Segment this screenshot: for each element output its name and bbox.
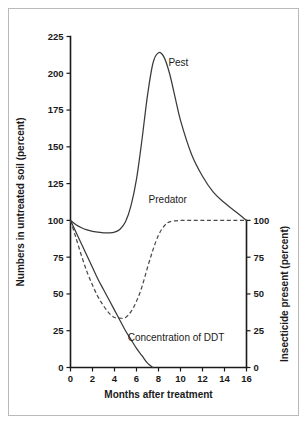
series-label-pest: Pest <box>168 57 188 68</box>
y-tick-label: 150 <box>48 141 64 152</box>
y2-tick-label: 100 <box>254 215 270 226</box>
y2-tick-label: 25 <box>254 325 265 336</box>
x-tick-label: 2 <box>90 373 95 384</box>
x-tick-label: 0 <box>68 373 73 384</box>
y-tick-label: 100 <box>48 215 64 226</box>
line-chart: 0255075100125150175200225025507510002468… <box>0 0 307 424</box>
x-tick-label: 16 <box>241 373 252 384</box>
x-tick-label: 12 <box>197 373 208 384</box>
x-tick-label: 4 <box>112 373 118 384</box>
y2-axis-title: Insecticide present (percent) <box>279 226 290 362</box>
y-tick-label: 75 <box>53 252 64 263</box>
y-tick-label: 0 <box>58 362 63 373</box>
y2-tick-label: 0 <box>254 362 259 373</box>
series-curve-predator <box>71 220 247 318</box>
x-tick-label: 10 <box>175 373 186 384</box>
y-tick-label: 225 <box>48 31 65 42</box>
x-axis-title: Months after treatment <box>104 389 213 400</box>
y2-tick-label: 75 <box>254 252 265 263</box>
series-curve-pest <box>71 52 247 233</box>
series-label-predator: Predator <box>149 194 188 205</box>
y-tick-label: 50 <box>53 288 64 299</box>
y-tick-label: 175 <box>48 104 65 115</box>
series-curve-concentration-of-ddt <box>71 220 154 367</box>
y-tick-label: 200 <box>48 68 64 79</box>
y-tick-label: 125 <box>48 178 65 189</box>
y2-tick-label: 50 <box>254 288 265 299</box>
chart-figure: 0255075100125150175200225025507510002468… <box>0 0 307 424</box>
y-tick-label: 25 <box>53 325 64 336</box>
x-tick-label: 6 <box>134 373 139 384</box>
y-axis-title: Numbers in untreated soil (percent) <box>15 118 26 287</box>
x-tick-label: 14 <box>219 373 230 384</box>
x-tick-label: 8 <box>156 373 161 384</box>
series-label-concentration-of-ddt: Concentration of DDT <box>128 332 225 343</box>
